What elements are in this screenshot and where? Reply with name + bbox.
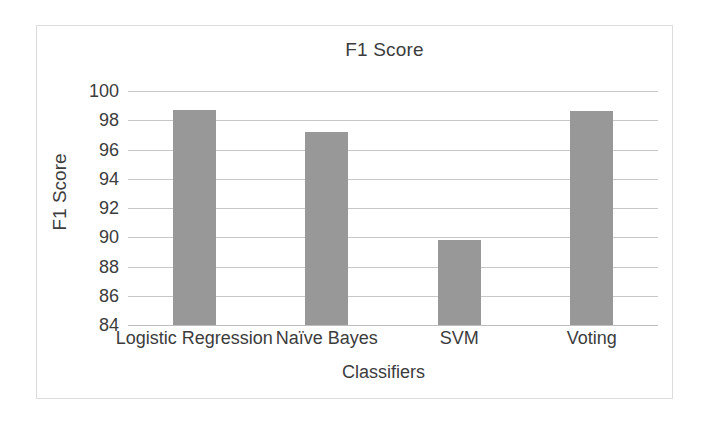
x-axis-tick-label: SVM (440, 328, 479, 349)
x-axis-tick-label: Voting (567, 328, 617, 349)
x-axis-tick-label: Logistic Regression (116, 328, 273, 349)
plot-area: 8486889092949698100Logistic RegressionNa… (128, 91, 658, 325)
y-axis-title: F1 Score (49, 127, 71, 257)
chart-figure: F1 Score F1 Score 8486889092949698100Log… (36, 25, 673, 399)
bar (438, 240, 481, 325)
bar (570, 111, 613, 325)
x-axis-title: Classifiers (37, 362, 674, 383)
gridline (128, 325, 658, 326)
y-axis-tick-label: 86 (99, 285, 119, 306)
y-axis-tick-label: 96 (99, 139, 119, 160)
y-axis-tick-label: 94 (99, 168, 119, 189)
y-axis-tick-label: 92 (99, 198, 119, 219)
chart-title-text: F1 Score (287, 39, 424, 60)
bar (305, 132, 348, 325)
bar (173, 110, 216, 325)
x-axis-tick-label: Naïve Bayes (276, 328, 378, 349)
y-axis-tick-label: 88 (99, 256, 119, 277)
y-axis-tick-label: 98 (99, 110, 119, 131)
chart-title: F1 Score (37, 39, 674, 61)
gridline (128, 91, 658, 92)
x-axis-title-text: Classifiers (286, 362, 425, 382)
y-axis-tick-label: 100 (89, 81, 119, 102)
y-axis-tick-label: 90 (99, 227, 119, 248)
